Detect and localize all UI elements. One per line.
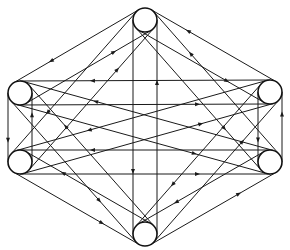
arrowhead-icon [195,102,200,106]
node-top [133,8,157,32]
edge-bottom-to-lower-right [151,172,276,244]
edge-lower-right-to-upper-left [23,81,273,150]
edge-lower-left-to-bottom [14,172,139,244]
edge-upper-right-to-top [151,10,276,82]
node-upper-left [8,81,32,105]
arrowhead-icon [131,169,135,174]
arrowhead-icon [90,148,95,152]
node-layer [8,8,282,246]
edge-top-to-upper-left [14,10,139,83]
edge-layer [6,10,284,245]
arrowhead-icon [191,151,196,155]
node-lower-left [8,150,32,174]
arrowhead-icon [30,112,34,117]
arrowhead-icon [90,79,95,83]
arrowhead-icon [236,193,241,197]
arrowhead-icon [195,172,200,176]
arrowhead-icon [174,199,179,203]
arrowhead-icon [186,30,191,34]
edge-upper-right-to-upper-left [20,80,270,81]
arrowhead-icon [198,123,203,127]
arrowhead-icon [111,51,116,55]
edge-lower-right-to-top [154,12,279,154]
node-lower-right [258,150,282,174]
edge-bottom-to-upper-left [29,85,154,226]
directed-graph-diagram [0,0,290,250]
arrowhead-icon [280,112,284,117]
arrowhead-icon [6,138,10,143]
arrowhead-icon [99,220,104,224]
arrowhead-icon [49,58,54,62]
arrowhead-icon [93,100,98,104]
edge-top-to-lower-right [136,28,261,170]
edge-upper-left-to-top [26,30,151,103]
edge-bottom-to-upper-right [154,100,279,242]
node-upper-right [258,80,282,104]
node-bottom [133,222,157,246]
edge-lower-left-to-top [29,28,154,170]
edge-upper-left-to-upper-right [20,104,270,105]
arrowhead-icon [87,128,92,132]
arrowhead-icon [256,137,260,142]
